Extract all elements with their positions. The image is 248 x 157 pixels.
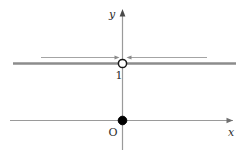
filled-dot-origin-marker — [118, 116, 127, 125]
y-axis-label: y — [108, 8, 116, 21]
open-circle-point-marker — [118, 59, 126, 67]
right-limit-arrow — [127, 55, 208, 59]
math-figure: y x 1 O — [0, 0, 248, 157]
right-limit-arrowhead — [127, 55, 132, 59]
y-axis-arrowhead — [120, 9, 126, 17]
y-value-one-label: 1 — [116, 69, 123, 82]
x-axis-arrowhead — [227, 118, 234, 123]
left-limit-arrowhead — [115, 55, 120, 59]
left-limit-arrow — [41, 55, 120, 59]
origin-label: O — [108, 126, 117, 139]
x-axis-label: x — [228, 126, 235, 139]
coordinate-plane-diagram: y x 1 O — [0, 0, 248, 157]
